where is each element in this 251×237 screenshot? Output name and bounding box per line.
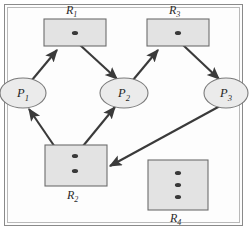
process-node-p3[interactable]: P3 (204, 78, 248, 108)
resource-allocation-graph-figure: R1 R2 R3 R4 (0, 0, 251, 237)
edge-r1-to-p2 (80, 45, 117, 79)
edge-p3-to-r2 (110, 106, 220, 166)
edge-p1-to-r1 (32, 50, 57, 80)
resource-node-r3[interactable]: R3 (147, 3, 209, 46)
resource-instance-dot (175, 195, 181, 199)
resource-instance-dot (72, 31, 78, 35)
resource-instances-r3 (175, 31, 181, 35)
resource-instance-dot (72, 154, 78, 158)
resource-node-r1[interactable]: R1 (44, 3, 106, 46)
resource-node-r2[interactable]: R2 (45, 145, 107, 204)
resource-instance-dot (175, 171, 181, 175)
processes-layer: P1 P2 P3 (0, 78, 248, 108)
process-label-p2-sub: 2 (126, 93, 131, 103)
resource-label-r3-sub: 3 (175, 10, 180, 19)
resource-instances-r1 (72, 31, 78, 35)
edge-r3-to-p3 (183, 45, 219, 79)
process-node-p2[interactable]: P2 (100, 78, 148, 108)
resource-label-r2-sub: 2 (74, 195, 78, 204)
resource-instance-dot (72, 169, 78, 173)
resource-label-r1: R1 (65, 3, 77, 19)
edge-p2-to-r3 (133, 50, 158, 80)
resource-label-r3: R3 (168, 3, 180, 19)
resource-box-r2[interactable] (45, 145, 107, 186)
resource-node-r4[interactable]: R4 (148, 160, 208, 227)
graph-canvas: R1 R2 R3 R4 (0, 0, 251, 237)
resource-label-r1-sub: 1 (73, 10, 77, 19)
process-node-p1[interactable]: P1 (0, 78, 46, 108)
resource-instance-dot (175, 31, 181, 35)
process-label-p1-sub: 1 (25, 93, 29, 103)
resource-label-r4: R4 (169, 211, 181, 227)
resources-layer: R1 R2 R3 R4 (44, 3, 209, 227)
resource-label-r4-sub: 4 (177, 218, 181, 227)
resource-instance-dot (175, 183, 181, 187)
process-label-p3-sub: 3 (227, 93, 232, 103)
resource-label-r2: R2 (66, 188, 78, 204)
